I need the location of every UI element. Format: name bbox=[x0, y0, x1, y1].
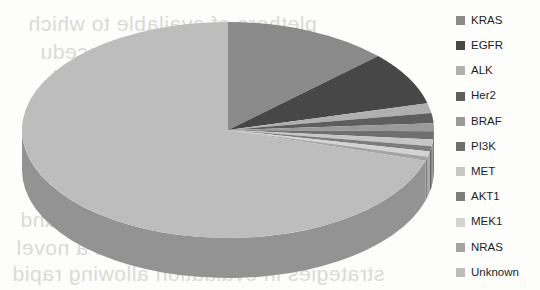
legend-item-akt1[interactable]: AKT1 bbox=[456, 184, 540, 209]
pie-side-nras bbox=[425, 157, 427, 201]
legend-swatch-icon bbox=[456, 92, 465, 101]
legend-item-egfr[interactable]: EGFR bbox=[456, 33, 540, 58]
pie-side-met bbox=[432, 139, 434, 186]
legend-item-label: ALK bbox=[471, 65, 493, 77]
legend-item-alk[interactable]: ALK bbox=[456, 58, 540, 83]
legend-item-label: Unknown bbox=[471, 267, 519, 279]
pie-side-mek1 bbox=[428, 152, 430, 197]
legend-swatch-icon bbox=[456, 218, 465, 227]
legend-swatch-icon bbox=[456, 117, 465, 126]
legend-item-pi3k[interactable]: PI3K bbox=[456, 134, 540, 159]
pie-chart-figure: plethora of available to which tion of a… bbox=[0, 0, 540, 290]
legend-item-kras[interactable]: KRAS bbox=[456, 8, 540, 33]
legend-item-label: EGFR bbox=[471, 40, 503, 52]
legend-item-mek1[interactable]: MEK1 bbox=[456, 210, 540, 235]
legend-item-met[interactable]: MET bbox=[456, 159, 540, 184]
legend-item-unknown[interactable]: Unknown bbox=[456, 260, 540, 285]
legend-swatch-icon bbox=[456, 167, 465, 176]
legend-swatch-icon bbox=[456, 192, 465, 201]
legend-item-nras[interactable]: NRAS bbox=[456, 235, 540, 260]
legend-item-label: KRAS bbox=[471, 15, 502, 27]
legend-swatch-icon bbox=[456, 16, 465, 25]
pie-plot-area bbox=[0, 0, 450, 290]
legend-item-label: NRAS bbox=[471, 242, 503, 254]
legend-item-label: BRAF bbox=[471, 116, 502, 128]
legend-item-label: Her2 bbox=[471, 90, 496, 102]
legend-item-her2[interactable]: Her2 bbox=[456, 84, 540, 109]
legend-item-label: MET bbox=[471, 166, 495, 178]
legend-swatch-icon bbox=[456, 66, 465, 75]
pie-top-faces bbox=[22, 22, 434, 238]
legend-item-label: PI3K bbox=[471, 141, 496, 153]
legend-swatch-icon bbox=[456, 268, 465, 277]
legend-swatch-icon bbox=[456, 243, 465, 252]
pie-side-akt1 bbox=[430, 146, 432, 191]
legend-swatch-icon bbox=[456, 142, 465, 151]
legend-swatch-icon bbox=[456, 41, 465, 50]
chart-legend: KRASEGFRALKHer2BRAFPI3KMETAKT1MEK1NRASUn… bbox=[456, 8, 540, 285]
legend-item-label: MEK1 bbox=[471, 216, 502, 228]
pie-svg bbox=[0, 0, 450, 290]
legend-item-braf[interactable]: BRAF bbox=[456, 109, 540, 134]
legend-item-label: AKT1 bbox=[471, 191, 500, 203]
